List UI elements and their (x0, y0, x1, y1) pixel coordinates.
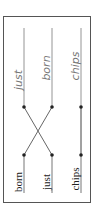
target-word-0: just (12, 69, 25, 92)
source-word-0: born (12, 171, 24, 192)
source-dot-0 (22, 153, 26, 157)
target-word-2: chips (69, 51, 82, 80)
target-dot-0 (22, 105, 26, 109)
source-dot-2 (79, 153, 83, 157)
target-dot-1 (50, 105, 54, 109)
word-alignment-diagram: just born chips born just chips (0, 0, 98, 217)
target-dot-2 (79, 105, 83, 109)
source-word-2: chips (69, 167, 81, 190)
source-word-1: just (40, 174, 52, 191)
target-word-1: born (40, 55, 53, 80)
source-dot-1 (50, 153, 54, 157)
